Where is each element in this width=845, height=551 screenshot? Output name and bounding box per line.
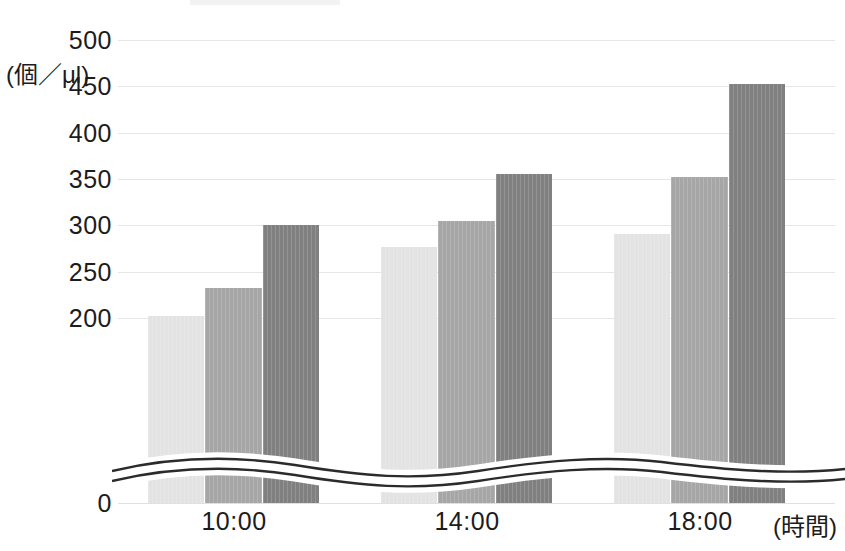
x-axis: (時間) 10:0014:0018:00 (0, 505, 845, 551)
bar (205, 288, 261, 503)
bar (263, 225, 319, 503)
bar (438, 221, 494, 503)
bar (671, 177, 727, 503)
gridline (118, 40, 835, 41)
y-axis-tick-label: 350 (36, 166, 112, 191)
y-axis-tick-label: 450 (36, 74, 112, 99)
y-axis-tick-label: 300 (36, 213, 112, 238)
gridline (118, 86, 835, 87)
y-axis: 0200250300350400450500 (26, 40, 112, 503)
x-axis-tick-label: 10:00 (148, 507, 320, 536)
bar (148, 316, 204, 503)
bar (729, 84, 785, 503)
top-crop-artifact (190, 0, 340, 5)
bar (614, 234, 670, 503)
x-axis-tick-label: 14:00 (381, 507, 553, 536)
y-axis-tick-label: 500 (36, 28, 112, 53)
gridline-zero (118, 503, 835, 504)
y-axis-tick-label: 400 (36, 120, 112, 145)
bar (381, 247, 437, 504)
plot-area (118, 40, 835, 503)
y-axis-tick-label: 250 (36, 259, 112, 284)
bar-chart: (個／μl) 0200250300350400450500 (時間) 10:00… (0, 0, 845, 551)
y-axis-tick-label: 200 (36, 305, 112, 330)
bar (496, 174, 552, 503)
x-axis-tick-label: 18:00 (614, 507, 786, 536)
gridline (118, 133, 835, 134)
